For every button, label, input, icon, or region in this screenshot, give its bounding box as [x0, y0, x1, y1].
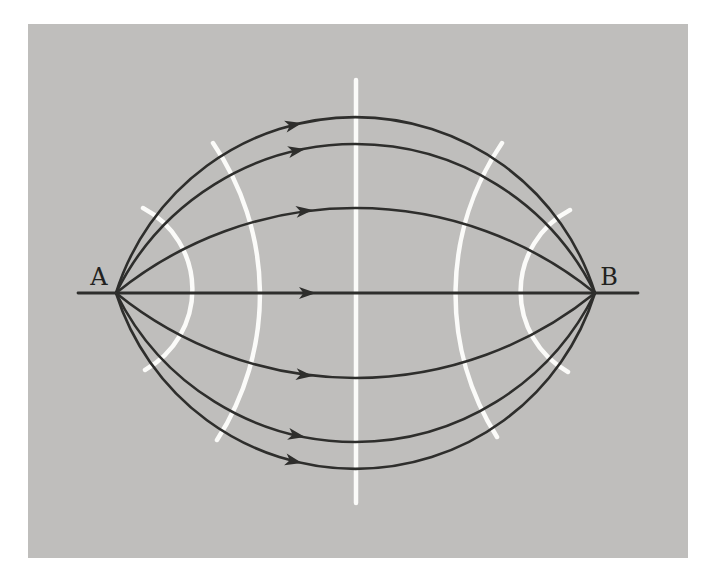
- figure-panel: AB: [28, 24, 688, 558]
- point-b-label: B: [600, 263, 618, 291]
- page-background: AB: [0, 0, 708, 585]
- path-top-outer-arrowhead: [284, 117, 303, 132]
- wavefront-b-outer: [456, 143, 502, 437]
- wavefront-b-inner: [521, 210, 570, 372]
- path-top-inner-arrowhead: [295, 204, 313, 218]
- path-top-middle-arrowhead: [287, 143, 306, 158]
- path-bottom-inner-arrowhead: [295, 368, 313, 382]
- wavefront-a-outer: [213, 143, 260, 440]
- point-a-label: A: [89, 263, 108, 291]
- path-bottom-outer-arrowhead: [284, 454, 303, 469]
- path-bottom-middle-arrowhead: [287, 428, 306, 443]
- paths-diagram: AB: [28, 24, 688, 558]
